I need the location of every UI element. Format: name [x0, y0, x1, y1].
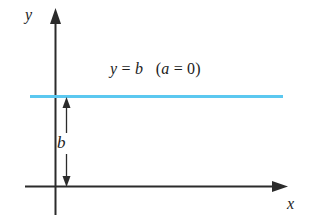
equation-equals-sign-2: = — [169, 60, 187, 77]
y-axis-arrowhead — [50, 8, 61, 24]
b-measure-arrowhead-top — [63, 97, 71, 108]
x-axis-label: x — [287, 196, 294, 212]
coordinate-plane-graphic — [0, 0, 312, 223]
x-axis-arrowhead — [272, 181, 288, 192]
figure-container: y x b y = b (a = 0) — [0, 0, 312, 223]
equation-spacer — [143, 60, 156, 77]
y-axis-label: y — [25, 7, 32, 23]
equation-equals-sign: = — [117, 60, 135, 77]
equation-paren-close: ) — [195, 60, 201, 77]
b-measure-arrowhead-bottom — [63, 176, 71, 187]
segment-length-label-b: b — [57, 134, 66, 151]
equation-variable-b: b — [135, 60, 143, 77]
line-equation-annotation: y = b (a = 0) — [110, 61, 201, 77]
